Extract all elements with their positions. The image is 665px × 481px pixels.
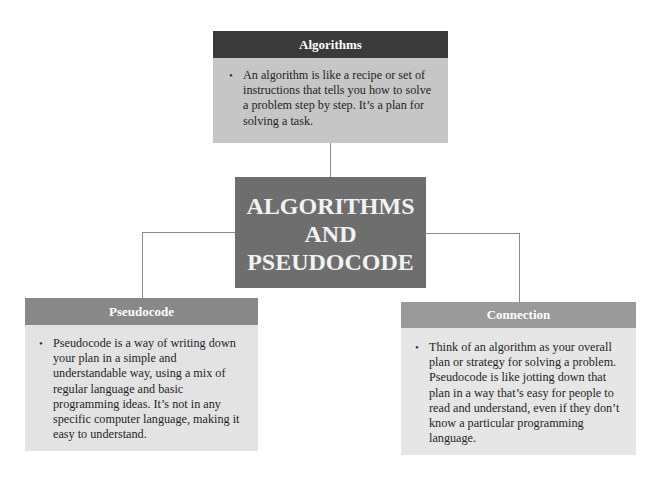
node-pseudocode: Pseudocode Pseudocode is a way of writin…: [25, 298, 258, 451]
node-connection-body: Think of an algorithm as your overall pl…: [401, 328, 636, 446]
connector-left-vertical: [142, 232, 143, 298]
node-connection-title: Connection: [401, 302, 636, 328]
central-topic-line2: AND: [246, 220, 414, 248]
node-connection: Connection Think of an algorithm as your…: [401, 302, 636, 455]
node-pseudocode-body: Pseudocode is a way of writing down your…: [25, 325, 258, 442]
connector-left-horizontal: [142, 232, 235, 233]
node-algorithms-body: An algorithm is like a recipe or set of …: [213, 58, 448, 129]
node-algorithms-title: Algorithms: [213, 31, 448, 58]
node-pseudocode-title: Pseudocode: [25, 298, 258, 325]
node-connection-bullet: Think of an algorithm as your overall pl…: [429, 340, 626, 446]
connector-right-vertical: [519, 233, 520, 302]
node-pseudocode-bullet: Pseudocode is a way of writing down your…: [53, 336, 248, 442]
central-topic: ALGORITHMS AND PSEUDOCODE: [235, 177, 426, 288]
node-algorithms: Algorithms An algorithm is like a recipe…: [213, 31, 448, 143]
central-topic-line3: PSEUDOCODE: [246, 248, 414, 276]
central-topic-line1: ALGORITHMS: [246, 192, 414, 220]
connector-right-horizontal: [426, 233, 520, 234]
connector-top: [330, 143, 331, 177]
node-algorithms-bullet: An algorithm is like a recipe or set of …: [243, 68, 436, 129]
